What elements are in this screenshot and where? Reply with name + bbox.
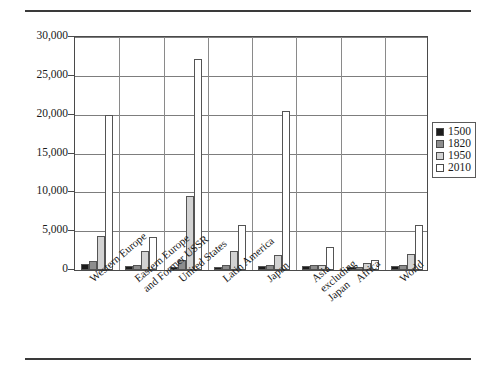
bar-group [296,37,340,270]
bar [391,266,399,270]
legend-item-label: 1820 [448,138,471,150]
figure-bottom-rule [25,358,471,360]
bar [302,266,310,270]
bar [282,111,290,270]
legend-swatch-icon [436,140,444,148]
bar [214,267,222,270]
legend-item[interactable]: 1820 [436,138,471,150]
bar [105,115,113,270]
y-tick-label: 30,000 [2,30,68,42]
group-separator [385,37,386,270]
y-tick-label: 5,000 [2,224,68,236]
legend-item-label: 1950 [448,150,471,162]
legend-swatch-icon [436,128,444,136]
bar-group [75,37,119,270]
bar-group [341,37,385,270]
y-tick-mark [68,114,74,115]
group-separator [296,37,297,270]
bar-group [252,37,296,270]
bar [81,264,89,270]
y-tick-label: 10,000 [2,185,68,197]
figure-top-rule [25,10,471,12]
bar-group [385,37,429,270]
group-separator [252,37,253,270]
legend-item-label: 1500 [448,126,471,138]
chart-legend: 1500182019502010 [432,122,476,178]
y-tick-mark [68,269,74,270]
y-tick-label: 25,000 [2,69,68,81]
bar-group [208,37,252,270]
group-separator [208,37,209,270]
group-separator [164,37,165,270]
legend-swatch-icon [436,164,444,172]
legend-item[interactable]: 1500 [436,126,471,138]
legend-item[interactable]: 2010 [436,162,471,174]
legend-item[interactable]: 1950 [436,150,471,162]
y-tick-label: 15,000 [2,147,68,159]
y-tick-mark [68,230,74,231]
plot-area [74,36,428,271]
y-tick-mark [68,153,74,154]
bar [125,266,133,270]
y-tick-mark [68,191,74,192]
y-tick-label: 0 [2,263,68,275]
y-tick-mark [68,75,74,76]
group-separator [119,37,120,270]
legend-swatch-icon [436,152,444,160]
y-tick-mark [68,36,74,37]
legend-item-label: 2010 [448,162,471,174]
y-tick-label: 20,000 [2,108,68,120]
group-separator [341,37,342,270]
bar [258,266,266,270]
